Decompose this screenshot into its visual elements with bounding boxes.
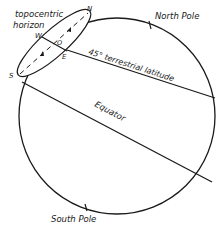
celestial-sphere-diagram: topocentric horizon N S W O E North Pole…	[0, 0, 224, 229]
north-pole-label: North Pole	[155, 11, 199, 21]
point-s-label: S	[9, 72, 14, 80]
equator-line	[22, 82, 212, 182]
point-e-label: E	[62, 53, 67, 61]
equator-label: Equator	[93, 99, 128, 124]
south-pole-label: South Pole	[51, 214, 96, 224]
horizon-label-line2: horizon	[13, 20, 45, 30]
point-o-label: O	[57, 39, 62, 47]
north-pole-tick	[149, 21, 151, 29]
latitude-label: 45° terrestrial latitude	[87, 47, 175, 83]
horizon-label-line1: topocentric	[15, 9, 64, 19]
south-pole-tick	[85, 204, 87, 211]
latitude-45-line	[67, 50, 215, 98]
point-w-label: W	[35, 32, 43, 40]
point-n-label: N	[87, 5, 93, 13]
